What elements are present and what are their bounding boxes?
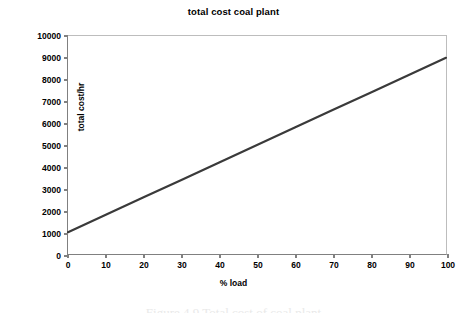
series-line-total-cost	[68, 36, 446, 254]
x-tick: 60	[279, 254, 313, 270]
x-tick-label: 50	[253, 260, 262, 270]
y-tick-mark	[64, 35, 68, 36]
x-tick-mark	[447, 254, 448, 258]
y-tick: 9000	[42, 53, 68, 63]
chart-figure: total cost coal plant total cost/hr 0100…	[0, 0, 467, 313]
y-tick-mark	[64, 123, 68, 124]
y-tick-label: 1000	[42, 229, 64, 239]
y-tick: 1000	[42, 229, 68, 239]
x-tick: 50	[241, 254, 275, 270]
x-tick-mark	[105, 254, 106, 258]
x-tick-label: 70	[329, 260, 338, 270]
y-tick-label: 5000	[42, 141, 64, 151]
y-tick: 7000	[42, 97, 68, 107]
x-tick: 80	[355, 254, 389, 270]
x-tick: 0	[51, 254, 85, 270]
y-tick-mark	[64, 167, 68, 168]
x-tick-mark	[333, 254, 334, 258]
y-axis-title: total cost/hr	[76, 52, 86, 162]
y-tick: 3000	[42, 185, 68, 195]
y-tick: 4000	[42, 163, 68, 173]
y-tick-mark	[64, 79, 68, 80]
y-tick-label: 4000	[42, 163, 64, 173]
y-tick-label: 10000	[37, 31, 64, 41]
x-axis-title: % load	[0, 278, 467, 288]
x-tick-mark	[143, 254, 144, 258]
y-tick: 2000	[42, 207, 68, 217]
data-line	[68, 58, 446, 232]
y-tick-label: 9000	[42, 53, 64, 63]
x-tick: 100	[431, 254, 465, 270]
x-tick-mark	[181, 254, 182, 258]
x-tick-label: 100	[441, 260, 455, 270]
x-tick-mark	[371, 254, 372, 258]
figure-caption-remnant: Figure 4.9 Total cost of coal plant	[0, 305, 467, 313]
plot-area: total cost/hr 01000200030004000500060007…	[67, 35, 447, 255]
y-tick-mark	[64, 211, 68, 212]
x-tick-mark	[409, 254, 410, 258]
x-tick-label: 0	[66, 260, 71, 270]
chart-title: total cost coal plant	[0, 6, 467, 17]
y-tick: 5000	[42, 141, 68, 151]
x-tick-mark	[257, 254, 258, 258]
x-tick-mark	[219, 254, 220, 258]
x-tick: 30	[165, 254, 199, 270]
y-tick: 8000	[42, 75, 68, 85]
x-tick-label: 90	[405, 260, 414, 270]
y-tick-label: 2000	[42, 207, 64, 217]
y-tick-label: 6000	[42, 119, 64, 129]
x-tick-label: 20	[139, 260, 148, 270]
x-tick: 10	[89, 254, 123, 270]
y-tick-mark	[64, 145, 68, 146]
x-tick-label: 40	[215, 260, 224, 270]
y-tick-label: 7000	[42, 97, 64, 107]
y-tick-mark	[64, 189, 68, 190]
x-tick: 40	[203, 254, 237, 270]
y-tick: 6000	[42, 119, 68, 129]
x-tick-label: 10	[101, 260, 110, 270]
x-tick-mark	[295, 254, 296, 258]
y-tick-mark	[64, 57, 68, 58]
x-tick: 70	[317, 254, 351, 270]
x-tick-label: 60	[291, 260, 300, 270]
y-tick-label: 8000	[42, 75, 64, 85]
y-tick-mark	[64, 101, 68, 102]
y-tick-label: 3000	[42, 185, 64, 195]
x-tick-label: 30	[177, 260, 186, 270]
y-tick: 10000	[37, 31, 68, 41]
x-tick-label: 80	[367, 260, 376, 270]
x-tick: 20	[127, 254, 161, 270]
y-tick-mark	[64, 233, 68, 234]
x-tick-mark	[67, 254, 68, 258]
x-tick: 90	[393, 254, 427, 270]
